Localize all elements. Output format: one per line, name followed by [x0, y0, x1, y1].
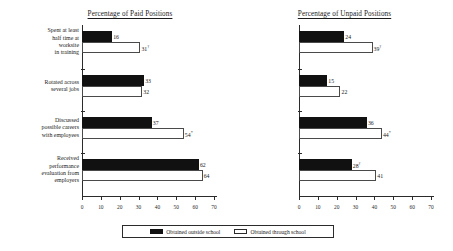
category-label-0-line-0: Spent at least: [48, 27, 79, 34]
bar-group-paid-0: 1631†Spent at leasthalf time atworksitei…: [82, 31, 214, 53]
x-tick-unpaid-50: [393, 196, 394, 200]
bar-unpaid-2-outside-school: 36: [299, 117, 367, 128]
bar-value-paid-1-0: 33: [145, 78, 151, 84]
bar-value-paid-3-0: 62: [200, 162, 206, 168]
x-tick-paid-20: [120, 196, 121, 200]
bar-value-paid-3-1: 64: [204, 173, 210, 179]
bar-group-unpaid-3: 28†41: [299, 159, 431, 181]
legend-label-outside-school: Obtained outside school: [166, 229, 220, 235]
x-tick-label-paid-50: 50: [174, 204, 179, 210]
x-tick-label-paid-30: 30: [136, 204, 141, 210]
category-label-0-line-1: half time at: [48, 35, 79, 42]
y-group-tick-paid-0: [81, 69, 85, 70]
bar-paid-3-through-school: 64: [82, 170, 203, 181]
bar-value-unpaid-0-1: 39†: [374, 44, 382, 52]
legend-swatch-outside-school: [150, 229, 163, 234]
bar-value-paid-0-0: 16: [113, 34, 119, 40]
x-tick-unpaid-60: [412, 196, 413, 200]
bar-paid-3-outside-school: 62: [82, 159, 199, 170]
x-tick-label-unpaid-50: 50: [391, 204, 396, 210]
x-tick-unpaid-40: [374, 196, 375, 200]
bar-group-paid-2: 3754*Discussedpossible careerswith emplo…: [82, 117, 214, 139]
bar-unpaid-3-outside-school: 28†: [299, 159, 352, 170]
bar-value-paid-2-1: 54*: [185, 130, 193, 138]
x-tick-label-unpaid-70: 70: [428, 204, 433, 210]
bar-value-paid-0-1: 31†: [141, 44, 149, 52]
legend-label-through-school: Obtained through school: [250, 229, 305, 235]
bar-group-unpaid-1: 1522: [299, 75, 431, 97]
bar-unpaid-2-through-school: 44*: [299, 128, 382, 139]
bar-value-unpaid-1-1: 22: [341, 89, 347, 95]
bar-group-unpaid-2: 3644*: [299, 117, 431, 139]
x-tick-unpaid-20: [337, 196, 338, 200]
x-tick-paid-50: [176, 196, 177, 200]
category-label-2-line-0: Discussed: [42, 117, 79, 124]
category-label-3: Receivedperformanceevaluation fromemploy…: [42, 155, 79, 185]
x-tick-label-unpaid-0: 0: [298, 204, 301, 210]
bar-paid-2-outside-school: 37: [82, 117, 152, 128]
panel-unpaid-positions: Percentage of Unpaid Positions 010203040…: [226, 8, 453, 213]
bar-value-mark-paid-2-1: *: [191, 130, 193, 135]
x-tick-label-paid-0: 0: [81, 204, 84, 210]
x-tick-label-unpaid-40: 40: [372, 204, 377, 210]
bar-value-mark-unpaid-3-0: †: [359, 161, 361, 166]
bar-value-paid-2-0: 37: [153, 120, 159, 126]
bar-value-mark-unpaid-0-1: †: [379, 44, 381, 49]
bar-value-unpaid-3-0: 28†: [353, 161, 361, 169]
legend-item-through-school: Obtained through school: [234, 229, 305, 235]
bar-paid-0-outside-school: 16: [82, 31, 112, 42]
bar-unpaid-0-outside-school: 24: [299, 31, 344, 42]
bar-paid-2-through-school: 54*: [82, 128, 184, 139]
bar-value-unpaid-2-0: 36: [368, 120, 374, 126]
category-label-1-line-0: Rotated across: [44, 79, 79, 86]
bar-value-unpaid-1-0: 15: [328, 78, 334, 84]
bar-paid-1-through-school: 32: [82, 86, 142, 97]
category-label-1: Rotated acrossseveral jobs: [44, 79, 79, 94]
bar-group-paid-3: 6264Receivedperformanceevaluation fromem…: [82, 159, 214, 181]
x-tick-unpaid-30: [356, 196, 357, 200]
bar-value-paid-1-1: 32: [143, 89, 149, 95]
x-tick-label-unpaid-60: 60: [409, 204, 414, 210]
plot-area-unpaid: 0102030405060702439†15223644*28†41: [299, 25, 431, 197]
bar-paid-1-outside-school: 33: [82, 75, 144, 86]
category-label-2-line-2: with employees: [42, 132, 79, 139]
bar-value-mark-paid-0-1: †: [147, 44, 149, 49]
x-tick-label-paid-60: 60: [192, 204, 197, 210]
bar-group-paid-1: 3332Rotated acrossseveral jobs: [82, 75, 214, 97]
x-tick-unpaid-70: [431, 196, 432, 200]
x-tick-label-paid-20: 20: [117, 204, 122, 210]
panel-paid-positions: Percentage of Paid Positions 01020304050…: [0, 8, 226, 213]
panel-title-unpaid: Percentage of Unpaid Positions: [226, 10, 453, 18]
x-tick-paid-70: [214, 196, 215, 200]
category-label-0: Spent at leasthalf time atworksitein tra…: [48, 27, 79, 57]
y-group-tick-paid-1: [81, 111, 85, 112]
bar-value-unpaid-0-0: 24: [345, 34, 351, 40]
bar-unpaid-1-through-school: 22: [299, 86, 340, 97]
y-group-tick-paid-2: [81, 153, 85, 154]
bar-value-unpaid-3-1: 41: [377, 173, 383, 179]
bar-paid-0-through-school: 31†: [82, 42, 140, 53]
bar-unpaid-3-through-school: 41: [299, 170, 376, 181]
category-label-3-line-0: Received: [42, 155, 79, 162]
x-tick-paid-30: [139, 196, 140, 200]
plot-area-paid: 0102030405060701631†Spent at leasthalf t…: [82, 25, 214, 197]
y-group-tick-unpaid-2: [298, 153, 302, 154]
x-tick-label-paid-70: 70: [211, 204, 216, 210]
y-group-tick-unpaid-0: [298, 69, 302, 70]
category-label-3-line-1: performance: [42, 163, 79, 170]
bar-value-unpaid-2-1: 44*: [383, 130, 391, 138]
category-label-2-line-1: possible careers: [42, 124, 79, 131]
bar-unpaid-0-through-school: 39†: [299, 42, 373, 53]
x-axis-line-unpaid: [299, 196, 434, 197]
category-label-3-line-2: evaluation from: [42, 170, 79, 177]
legend-swatch-through-school: [234, 229, 247, 234]
x-tick-paid-0: [82, 196, 83, 200]
x-axis-line-paid: [82, 196, 217, 197]
y-group-tick-unpaid-1: [298, 111, 302, 112]
bar-unpaid-1-outside-school: 15: [299, 75, 327, 86]
chart-legend: Obtained outside school Obtained through…: [122, 225, 334, 238]
bar-group-unpaid-0: 2439†: [299, 31, 431, 53]
category-label-2: Discussedpossible careerswith employees: [42, 117, 79, 139]
x-tick-paid-60: [195, 196, 196, 200]
category-label-0-line-2: worksite: [48, 42, 79, 49]
